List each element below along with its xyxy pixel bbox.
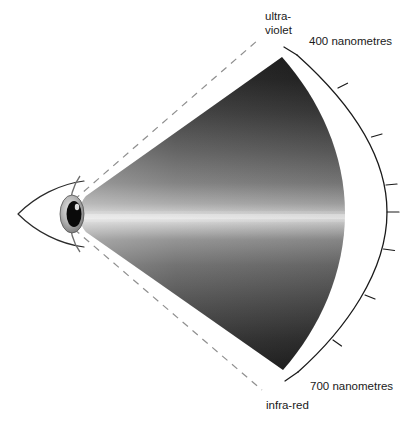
ultraviolet-label-line1: ultra- [265, 10, 291, 22]
light-cone [80, 57, 350, 370]
spectrum-arc-cap-top [284, 47, 297, 55]
wavelength-long-label: 700 nanometres [310, 380, 393, 392]
wavelength-short-label: 400 nanometres [309, 35, 392, 47]
pupil [67, 201, 82, 227]
infrared-label: infra-red [266, 399, 309, 411]
axis-highlight [80, 211, 350, 222]
spectrum-cone-diagram: ultra- violet 400 nanometres 700 nanomet… [0, 0, 412, 423]
spectrum-arc-cap-bottom [285, 372, 298, 381]
eye [18, 176, 84, 252]
arc-tick-1 [338, 83, 348, 88]
arc-tick-7 [333, 340, 342, 346]
pupil-highlight [75, 204, 79, 210]
arc-tick-6 [365, 295, 375, 299]
arc-tick-2 [372, 134, 383, 137]
arc-tick-5 [384, 249, 395, 251]
ultraviolet-label-line2: violet [265, 24, 293, 36]
arc-tick-3 [386, 184, 397, 185]
